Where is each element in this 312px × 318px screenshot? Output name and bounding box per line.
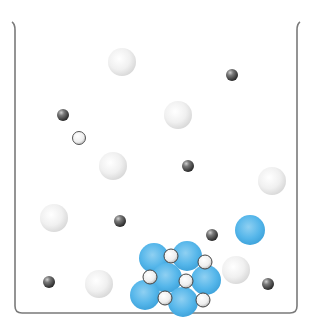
small-white-particle [158, 291, 172, 305]
small-white-particle [179, 274, 193, 288]
large-white-particle [40, 204, 68, 232]
blue-ion-particle [130, 280, 160, 310]
small-dark-particle [206, 229, 218, 241]
blue-ion-particle [191, 265, 221, 295]
large-white-particle [85, 270, 113, 298]
large-white-particle [164, 101, 192, 129]
blue-ion-particle [235, 215, 265, 245]
small-dark-particle [43, 276, 55, 288]
large-white-particle [99, 152, 127, 180]
small-dark-particle [114, 215, 126, 227]
small-dark-particle [262, 278, 274, 290]
blue-ion-particle [168, 287, 198, 317]
large-white-particle [108, 48, 136, 76]
small-white-particle [143, 270, 157, 284]
large-white-particle [222, 256, 250, 284]
small-white-particle [73, 132, 86, 145]
small-dark-particle [57, 109, 69, 121]
small-white-particle [196, 293, 210, 307]
small-white-particle [198, 255, 212, 269]
large-white-particle [258, 167, 286, 195]
small-dark-particle [226, 69, 238, 81]
small-dark-particle [182, 160, 194, 172]
beaker-diagram [0, 0, 312, 318]
small-white-particle [164, 249, 178, 263]
